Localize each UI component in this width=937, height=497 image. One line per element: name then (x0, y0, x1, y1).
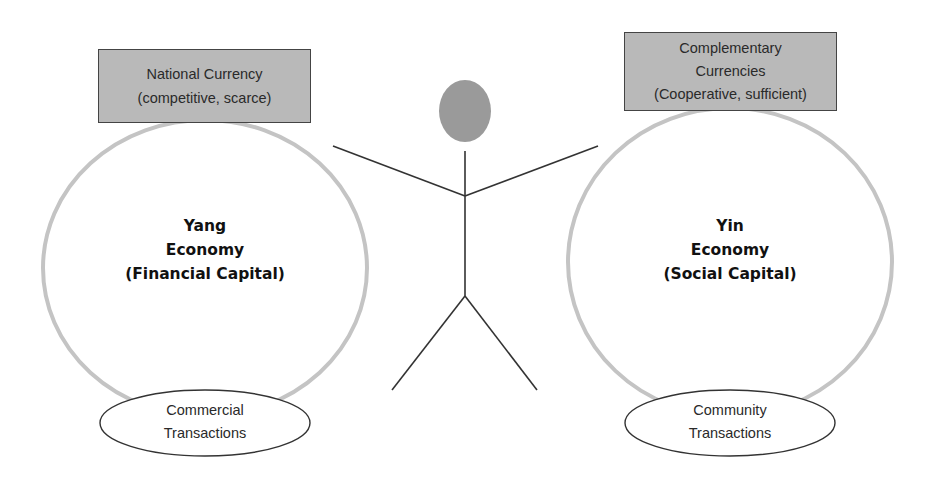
yin-economy-word: Economy (630, 238, 830, 262)
complementary-currencies-title-1: Complementary (679, 37, 781, 60)
national-currency-title: National Currency (146, 62, 262, 86)
right-arm (465, 146, 598, 196)
commercial-word: Commercial (125, 399, 285, 422)
right-leg (465, 296, 537, 390)
left-arm (333, 146, 465, 196)
complementary-currencies-box: Complementary Currencies (Cooperative, s… (624, 32, 837, 111)
national-currency-box: National Currency (competitive, scarce) (98, 49, 311, 123)
social-capital-label: (Social Capital) (630, 262, 830, 286)
left-leg (392, 296, 465, 390)
complementary-currencies-title-2: Currencies (695, 60, 765, 83)
transactions-word-right: Transactions (650, 422, 810, 445)
yang-economy-label: Yang Economy (Financial Capital) (105, 214, 305, 286)
complementary-currencies-subtitle: (Cooperative, sufficient) (654, 83, 807, 106)
yin-economy-label: Yin Economy (Social Capital) (630, 214, 830, 286)
national-currency-subtitle: (competitive, scarce) (138, 86, 272, 110)
commercial-transactions-label: Commercial Transactions (125, 399, 285, 445)
yin-label: Yin (630, 214, 830, 238)
yang-economy-word: Economy (105, 238, 305, 262)
yang-label: Yang (105, 214, 305, 238)
community-transactions-label: Community Transactions (650, 399, 810, 445)
head (439, 80, 491, 142)
community-word: Community (650, 399, 810, 422)
transactions-word-left: Transactions (125, 422, 285, 445)
financial-capital-label: (Financial Capital) (105, 262, 305, 286)
stick-figure-icon (333, 80, 598, 390)
